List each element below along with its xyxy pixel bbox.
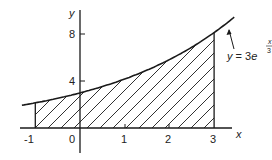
exponent-numerator: x <box>267 38 272 45</box>
exponent-denominator: 3 <box>267 47 271 54</box>
hatch-line <box>75 20 195 140</box>
x-tick-label-3: 3 <box>210 133 216 145</box>
hatch-line <box>192 20 272 140</box>
hatch-line <box>0 20 52 140</box>
hatch-line <box>0 20 104 140</box>
x-tick-label-1: 1 <box>121 133 127 145</box>
hatch-line <box>0 20 117 140</box>
label-pointer-arrowhead <box>227 29 232 35</box>
hatch-line <box>127 20 247 140</box>
hatch-line <box>49 20 169 140</box>
hatch-line <box>114 20 234 140</box>
y-tick-label-8: 8 <box>69 28 75 40</box>
y-axis-label: y <box>68 7 76 19</box>
hatch-line <box>0 20 13 140</box>
hatch-line <box>153 20 272 140</box>
hatch-line <box>88 20 208 140</box>
hatch-line <box>23 20 143 140</box>
hatch-line <box>0 20 26 140</box>
hatch-line <box>179 20 272 140</box>
hatch-line <box>0 20 78 140</box>
x-tick-label-neg1: -1 <box>24 133 34 145</box>
hatch-line <box>140 20 260 140</box>
equation-e: e <box>251 50 257 62</box>
exponential-curve <box>22 17 234 105</box>
hatch-line <box>0 20 91 140</box>
y-tick-label-4: 4 <box>69 75 75 87</box>
curve-equation-label: y = 3e <box>226 50 257 62</box>
hatch-line <box>0 20 39 140</box>
x-axis-label: x <box>235 128 242 140</box>
area-under-curve-diagram: y x 8 4 -1 0 1 2 3 y = 3e x 3 <box>0 0 272 160</box>
hatch-line <box>0 20 65 140</box>
hatch-line <box>166 20 272 140</box>
equation-body: = 3 <box>233 50 252 62</box>
hatch-line <box>36 20 156 140</box>
x-tick-label-0: 0 <box>69 133 75 145</box>
x-tick-label-2: 2 <box>165 133 171 145</box>
hatch-line <box>101 20 221 140</box>
